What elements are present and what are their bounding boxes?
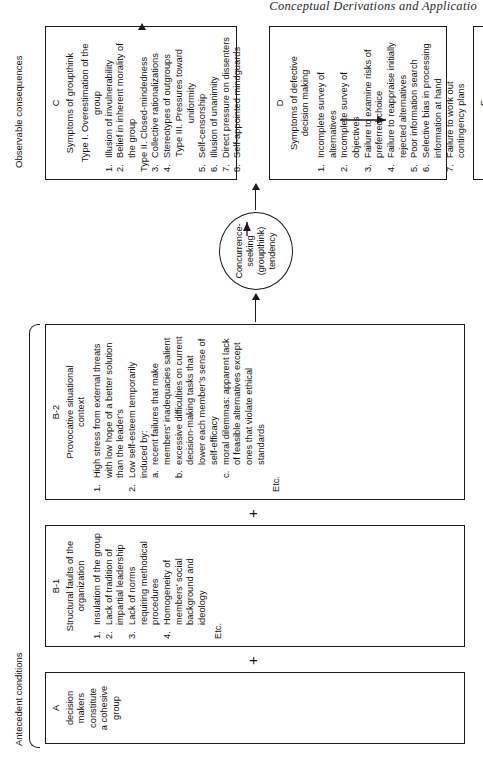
figure-page: Conceptual Derivations and Applicatio An…	[0, 0, 483, 764]
box-e-key: E	[479, 34, 483, 172]
diagram-stage-arrows	[7, 10, 477, 754]
